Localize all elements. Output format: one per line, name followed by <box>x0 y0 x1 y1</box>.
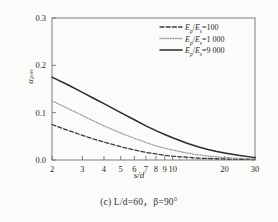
y-axis-label-text: αₚₘ <box>25 70 35 83</box>
figure-container: 0.00.10.20.323456789102030 Ep/Es=100Ep/E… <box>0 0 278 222</box>
figure-caption-text: (c) L/d=60，β=90° <box>100 197 178 207</box>
x-axis-label-text: s/d <box>134 170 145 180</box>
axis-ticks: 0.00.10.20.323456789102030 <box>35 13 259 174</box>
y-axis-label: αₚₘ <box>25 57 35 97</box>
svg-text:0.2: 0.2 <box>35 60 46 70</box>
data-curves <box>52 77 255 159</box>
chart-legend: Ep/Es=100Ep/Es=1 000Ep/Es=9 000 <box>160 23 225 57</box>
curve-solid <box>52 77 255 157</box>
legend-label: Ep/Es=1 000 <box>184 35 225 46</box>
legend-label: Ep/Es=9 000 <box>184 46 225 57</box>
figure-caption: (c) L/d=60，β=90° <box>0 194 278 208</box>
svg-text:0.1: 0.1 <box>35 108 46 118</box>
axis-frame <box>52 18 255 160</box>
svg-text:0.0: 0.0 <box>35 155 46 165</box>
svg-text:0.3: 0.3 <box>35 13 46 23</box>
chart-plot: 0.00.10.20.323456789102030 Ep/Es=100Ep/E… <box>0 0 278 222</box>
x-axis-label: s/d <box>0 170 278 180</box>
legend-label: Ep/Es=100 <box>184 23 219 34</box>
